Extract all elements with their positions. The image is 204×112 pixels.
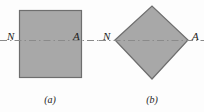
panel-b-left-axis-label: N bbox=[103, 31, 110, 42]
panel-b-right-axis-label: A bbox=[192, 31, 199, 42]
panel-a-left-axis-label: N bbox=[7, 31, 14, 42]
panel-a-right-axis-label: A bbox=[73, 31, 80, 42]
panel-a-square-shape bbox=[20, 11, 82, 78]
panel-b-caption: (b) bbox=[130, 95, 174, 105]
panel-b-diamond-shape bbox=[115, 6, 188, 79]
figure-container: N A N A (a) (b) bbox=[0, 0, 204, 112]
panel-a-caption: (a) bbox=[28, 95, 72, 105]
